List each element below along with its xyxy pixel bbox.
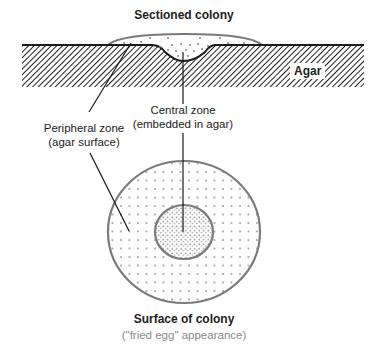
sectioned-colony-title: Sectioned colony [134, 9, 234, 22]
peripheral-zone-label-2: (agar surface) [40, 136, 128, 149]
central-zone-label-1: Central zone [133, 104, 233, 117]
colony-diagram-graphic [0, 0, 380, 350]
surface-colony-view [108, 161, 260, 303]
central-zone-label-2: (embedded in agar) [128, 118, 238, 131]
surface-colony-title: Surface of colony [124, 313, 244, 326]
peripheral-zone-label-1: Peripheral zone [40, 122, 128, 135]
fried-egg-subtitle: ("fried egg" appearance) [114, 329, 254, 342]
agar-label: Agar [290, 63, 325, 79]
diagram-stage: Sectioned colony Agar Central zone (embe… [0, 0, 380, 350]
